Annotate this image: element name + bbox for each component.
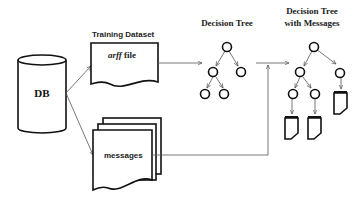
merged-tree-title-line1: Decision Tree xyxy=(286,6,338,16)
messages-document-stack: messages xyxy=(93,118,161,190)
arff-file-document: arff file xyxy=(91,43,158,86)
tree-node xyxy=(336,69,345,78)
message-leaf-icon xyxy=(285,116,298,139)
merged-tree-title-line2: with Messages xyxy=(284,18,340,28)
file-label: file xyxy=(122,50,136,60)
training-dataset-title: Training Dataset xyxy=(92,30,155,39)
decision-tree-with-messages xyxy=(285,43,347,140)
tree-node-root xyxy=(310,43,319,52)
decision-tree-title: Decision Tree xyxy=(201,18,253,28)
tree-node xyxy=(296,68,305,77)
tree-node xyxy=(209,68,218,77)
arrow-db-to-messages xyxy=(66,93,93,155)
database-cylinder: DB xyxy=(18,55,66,133)
tree-node xyxy=(201,90,210,99)
tree-node xyxy=(289,90,298,99)
diagram-canvas: DB Training Dataset arff file messages D… xyxy=(0,0,361,204)
message-leaf-icon xyxy=(334,91,347,114)
database-label: DB xyxy=(34,87,50,99)
message-leaf-icon xyxy=(308,116,321,139)
tree-node xyxy=(311,90,320,99)
arff-label: arff xyxy=(108,50,123,60)
arff-file-label: arff file xyxy=(108,50,136,60)
arrow-db-to-arff xyxy=(66,66,91,93)
decision-tree xyxy=(201,43,246,99)
tree-node xyxy=(237,68,246,77)
arrow-messages-to-merged xyxy=(152,65,268,155)
tree-node-root xyxy=(223,43,232,52)
messages-label: messages xyxy=(104,151,143,160)
tree-node xyxy=(220,90,229,99)
